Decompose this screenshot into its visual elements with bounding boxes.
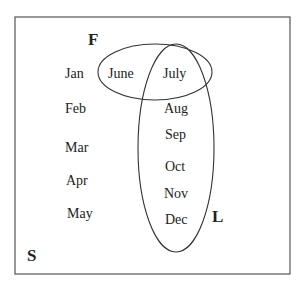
element-sep: Sep <box>165 127 186 142</box>
element-jan: Jan <box>65 66 84 81</box>
element-june: June <box>108 66 134 81</box>
element-mar: Mar <box>65 140 89 155</box>
element-aug: Aug <box>164 101 188 116</box>
element-may: May <box>67 206 93 221</box>
element-oct: Oct <box>165 159 185 174</box>
set-f-label: F <box>88 30 98 49</box>
element-apr: Apr <box>66 173 88 188</box>
set-l-label: L <box>212 207 223 226</box>
element-july: July <box>163 66 186 81</box>
element-dec: Dec <box>165 212 188 227</box>
venn-diagram: F L S Jan Feb Mar Apr May June July Aug … <box>0 0 306 291</box>
universal-set-label: S <box>27 246 36 265</box>
universal-set-box <box>15 17 290 274</box>
element-nov: Nov <box>164 186 188 201</box>
element-feb: Feb <box>65 101 86 116</box>
